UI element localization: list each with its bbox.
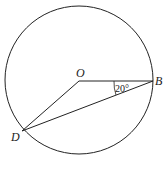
circle xyxy=(5,6,153,154)
circle-diagram: 20° O B D xyxy=(0,0,164,172)
angle-label: 20° xyxy=(115,83,129,94)
point-label-d: D xyxy=(10,130,20,144)
point-label-o: O xyxy=(76,66,85,80)
point-label-b: B xyxy=(155,74,163,88)
segment-od xyxy=(22,81,79,131)
segment-db xyxy=(22,81,153,131)
